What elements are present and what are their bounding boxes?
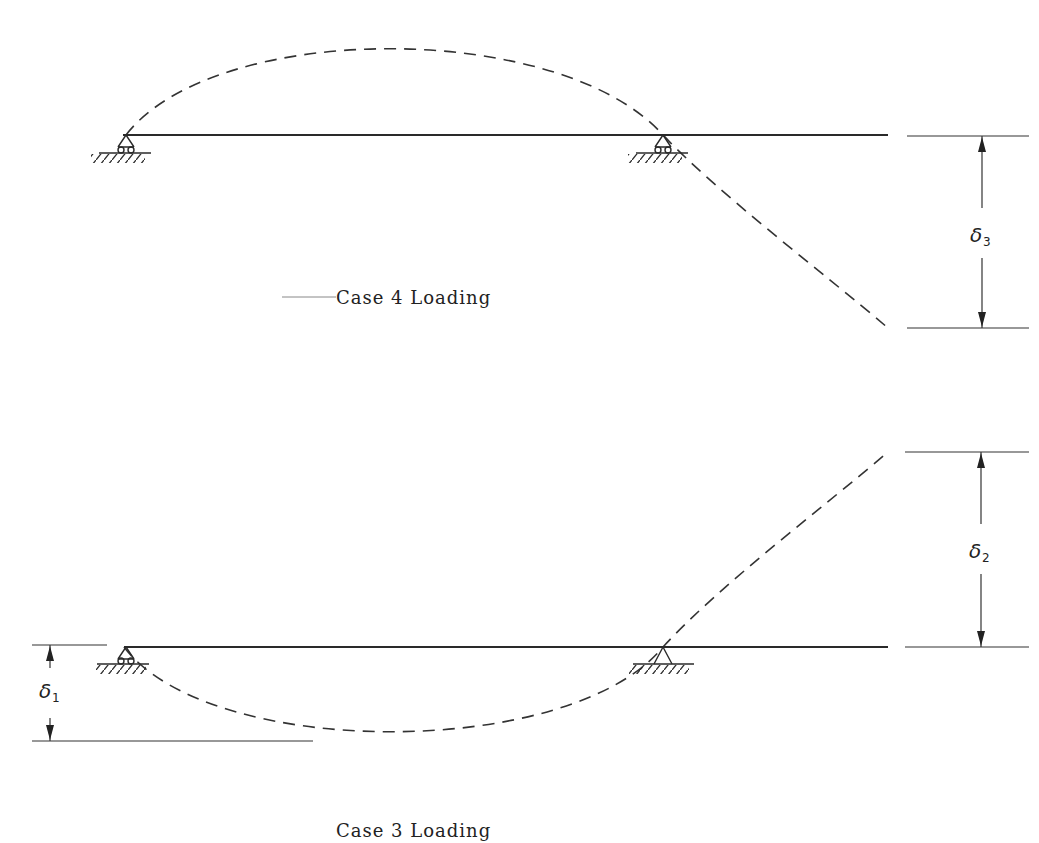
case4-right-roller-support xyxy=(628,135,688,163)
delta3-subscript: 3 xyxy=(983,235,991,249)
delta2-symbol: δ xyxy=(969,539,981,563)
delta3-symbol: δ xyxy=(970,223,982,247)
delta1-symbol: δ xyxy=(39,679,51,703)
case3-left-roller-support xyxy=(96,647,149,674)
case3-right-pin-support xyxy=(629,647,694,674)
delta1-dimension: δ 1 xyxy=(32,645,313,741)
beam-deflection-diagram: δ 3 Case 4 Loading xyxy=(0,0,1039,843)
case3-group: δ 1 δ 2 Case 3 Loading xyxy=(32,452,1029,841)
case4-deflected-shape xyxy=(126,49,888,328)
delta2-subscript: 2 xyxy=(982,551,990,565)
delta3-dimension: δ 3 xyxy=(907,136,1029,328)
case4-group: δ 3 Case 4 Loading xyxy=(91,49,1029,328)
case4-label: Case 4 Loading xyxy=(336,287,491,308)
case3-deflected-shape xyxy=(124,452,888,732)
case3-label: Case 3 Loading xyxy=(336,820,491,841)
delta2-dimension: δ 2 xyxy=(905,452,1029,647)
delta1-subscript: 1 xyxy=(52,691,60,705)
case4-left-roller-support xyxy=(91,135,151,163)
